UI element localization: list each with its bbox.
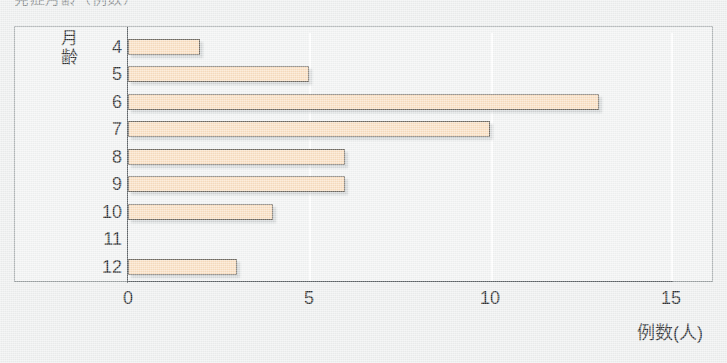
y-axis-title: 月 齢: [58, 29, 80, 67]
y-axis-tick-label: 12: [80, 258, 122, 276]
bar-rows: 456789101112: [128, 33, 673, 281]
bar-row: 12: [128, 253, 673, 281]
y-axis-tick-label: 5: [80, 65, 122, 83]
bar: [128, 204, 273, 220]
x-axis-tick-label: 0: [123, 288, 133, 309]
y-axis-tick-label: 10: [80, 203, 122, 221]
x-axis-tick-label: 15: [661, 288, 681, 309]
bar-row: 5: [128, 61, 673, 89]
x-axis-tick-label: 10: [480, 288, 500, 309]
bar: [128, 149, 345, 165]
y-axis-tick-label: 7: [80, 120, 122, 138]
bar-row: 7: [128, 116, 673, 144]
bar: [128, 94, 599, 110]
bar-row: 8: [128, 143, 673, 171]
bar: [128, 176, 345, 192]
y-axis-tick-label: 11: [80, 230, 122, 248]
figure-caption-text: 発症月齢（例数）: [14, 0, 138, 8]
y-axis-tick-label: 9: [80, 175, 122, 193]
x-axis-title: 例数(人): [637, 318, 703, 344]
bar-row: 11: [128, 226, 673, 254]
bar-row: 9: [128, 171, 673, 199]
bar-row: 6: [128, 88, 673, 116]
y-axis-tick-label: 4: [80, 38, 122, 56]
bar: [128, 39, 200, 55]
bar-row: 4: [128, 33, 673, 61]
bar-chart-figure: 発症月齢（例数） 月 齢 456789101112 051015 例数(人): [0, 0, 727, 363]
bar: [128, 66, 309, 82]
bar-row: 10: [128, 198, 673, 226]
y-axis-tick-label: 6: [80, 93, 122, 111]
y-axis-title-char-2: 齢: [58, 48, 80, 67]
bar: [128, 121, 490, 137]
y-axis-title-char-1: 月: [58, 29, 80, 48]
y-axis-tick-label: 8: [80, 148, 122, 166]
x-axis-tick-label: 5: [304, 288, 314, 309]
bar: [128, 259, 237, 275]
y-axis-line: [127, 27, 128, 283]
x-axis-line: [127, 281, 673, 282]
figure-caption-cropped: 発症月齢（例数）: [0, 0, 727, 11]
x-axis-tick-labels: 051015: [0, 288, 727, 314]
